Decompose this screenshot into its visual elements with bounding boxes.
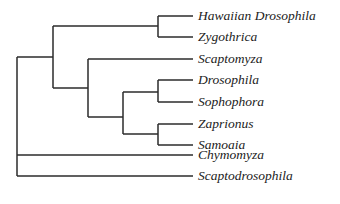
taxon-label-chymomyza: Chymomyza xyxy=(198,147,264,163)
taxon-label-drosophila: Drosophila xyxy=(198,72,259,88)
taxon-label-zygothrica: Zygothrica xyxy=(198,29,257,45)
taxon-label-scaptodrosophila: Scaptodrosophila xyxy=(198,168,293,184)
taxon-label-sophophora: Sophophora xyxy=(198,94,264,110)
taxon-label-scaptomyza: Scaptomyza xyxy=(198,51,263,67)
taxon-label-hawaiian-drosophila: Hawaiian Drosophila xyxy=(198,8,316,24)
taxon-label-zaprionus: Zaprionus xyxy=(198,116,254,132)
